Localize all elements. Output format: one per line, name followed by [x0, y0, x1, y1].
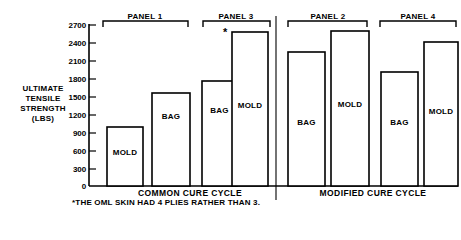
bar-label-panel4-bag: BAG: [381, 118, 418, 127]
bar-label-panel2-mold: MOLD: [331, 100, 369, 109]
bar-label-panel1-mold: MOLD: [107, 148, 143, 157]
bar-label-panel3-mold: MOLD: [232, 101, 268, 110]
panel-bracket-1: [103, 21, 188, 27]
cycle-label-modified: MODIFIED CURE CYCLE: [288, 188, 458, 198]
bar-panel1-bag: [152, 93, 190, 186]
bar-label-panel1-bag: BAG: [152, 112, 190, 121]
cycle-label-common: COMMON CURE CYCLE: [110, 188, 270, 198]
panel-bracket-4: [380, 21, 456, 27]
panel-bracket-2: [288, 21, 367, 27]
footnote: *THE OML SKIN HAD 4 PLIES RATHER THAN 3.: [72, 198, 260, 207]
bar-label-panel2-bag: BAG: [288, 118, 325, 127]
bar-panel4-bag: [381, 72, 418, 186]
bar-label-panel4-mold: MOLD: [423, 107, 459, 116]
panel-bracket-3: [203, 21, 270, 27]
